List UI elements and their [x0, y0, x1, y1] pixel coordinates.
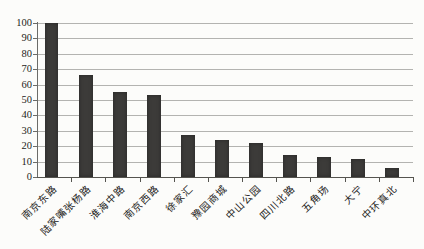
y-tick: [33, 100, 37, 101]
gridline: [37, 131, 413, 132]
y-tick-label: 10: [2, 157, 32, 167]
gridline: [37, 115, 413, 116]
x-tick: [345, 178, 346, 182]
y-tick: [33, 131, 37, 132]
chart-bar: [79, 75, 93, 177]
x-category-label-text: 徐家汇: [164, 183, 195, 214]
gridline: [37, 100, 413, 101]
bar-chart: 0102030405060708090100南京东路陆家嘴张杨路淮海中路南京西路…: [0, 0, 424, 249]
y-tick: [33, 177, 37, 178]
gridline: [37, 69, 413, 70]
y-tick: [33, 85, 37, 86]
y-tick: [33, 146, 37, 147]
chart-bar: [283, 155, 297, 177]
y-tick: [33, 23, 37, 24]
y-tick-label: 90: [2, 33, 32, 43]
y-tick: [33, 38, 37, 39]
x-category-label-text: 淮海中路: [88, 183, 127, 222]
chart-bar: [249, 143, 263, 177]
x-category-label-text: 豫园商城: [190, 183, 229, 222]
gridline: [37, 23, 413, 24]
chart-bar: [45, 23, 59, 177]
y-tick-label: 40: [2, 110, 32, 120]
chart-bar: [147, 95, 161, 177]
gridline: [37, 85, 413, 86]
chart-bar: [113, 92, 127, 177]
x-tick: [276, 178, 277, 182]
y-tick-label: 30: [2, 126, 32, 136]
y-tick-label: 20: [2, 141, 32, 151]
y-tick-label: 100: [2, 18, 32, 28]
x-category-label-text: 南京西路: [122, 183, 161, 222]
gridline: [37, 54, 413, 55]
y-tick: [33, 54, 37, 55]
x-tick: [174, 178, 175, 182]
x-tick: [310, 178, 311, 182]
y-tick-label: 50: [2, 95, 32, 105]
x-category-label-text: 中环真北: [360, 183, 399, 222]
y-tick: [33, 162, 37, 163]
y-tick-label: 70: [2, 64, 32, 74]
chart-bar: [385, 168, 399, 177]
y-axis-line: [37, 22, 38, 178]
y-tick: [33, 115, 37, 116]
y-tick-label: 80: [2, 49, 32, 59]
x-axis-line: [34, 177, 414, 178]
x-tick: [413, 178, 414, 182]
x-tick: [140, 178, 141, 182]
x-category-label-text: 大宁: [342, 183, 365, 206]
x-category-label-text: 四川北路: [258, 183, 297, 222]
x-tick: [71, 178, 72, 182]
chart-bar: [181, 135, 195, 177]
x-tick: [242, 178, 243, 182]
gridline: [37, 38, 413, 39]
y-tick: [33, 69, 37, 70]
chart-bar: [351, 159, 365, 177]
x-category-label-text: 五角场: [300, 183, 331, 214]
y-tick-label: 60: [2, 80, 32, 90]
x-category-label-text: 中山公园: [224, 183, 263, 222]
plot-area: [37, 23, 413, 177]
x-tick: [379, 178, 380, 182]
y-tick-label: 0: [2, 172, 32, 182]
x-tick: [208, 178, 209, 182]
chart-bar: [317, 157, 331, 177]
chart-bar: [215, 140, 229, 177]
x-tick: [105, 178, 106, 182]
